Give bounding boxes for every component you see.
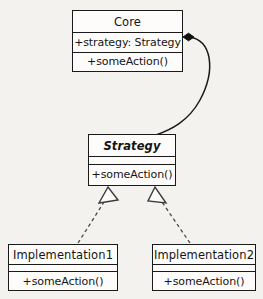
realization-dashed-line — [78, 202, 104, 243]
class-operations-implementation2: +someAction() — [153, 271, 255, 290]
class-name-implementation1: Implementation1 — [9, 245, 117, 264]
class-box-strategy[interactable]: Strategy +someAction() — [88, 134, 176, 186]
class-operations-strategy: +someAction() — [89, 164, 175, 185]
class-attributes-core: +strategy: Strategy — [73, 32, 182, 51]
class-box-implementation2[interactable]: Implementation2 +someAction() — [152, 244, 256, 291]
realization-impl2-to-strategy — [148, 187, 190, 243]
class-attributes-implementation2 — [153, 264, 255, 271]
class-box-core[interactable]: Core +strategy: Strategy +someAction() — [72, 10, 183, 72]
class-name-core: Core — [73, 11, 182, 32]
class-name-implementation2: Implementation2 — [153, 245, 255, 264]
class-name-strategy: Strategy — [89, 135, 175, 156]
realization-dashed-line — [162, 202, 190, 243]
class-attributes-implementation1 — [9, 264, 117, 271]
filled-diamond-icon — [183, 33, 194, 41]
realization-impl1-to-strategy — [78, 187, 118, 243]
uml-class-diagram: Core +strategy: Strategy +someAction() S… — [0, 0, 263, 299]
class-attributes-strategy — [89, 156, 175, 164]
class-operations-implementation1: +someAction() — [9, 271, 117, 290]
hollow-triangle-icon — [148, 187, 166, 203]
hollow-triangle-icon — [99, 187, 118, 203]
class-box-implementation1[interactable]: Implementation1 +someAction() — [8, 244, 118, 291]
class-operations-core: +someAction() — [73, 52, 182, 71]
